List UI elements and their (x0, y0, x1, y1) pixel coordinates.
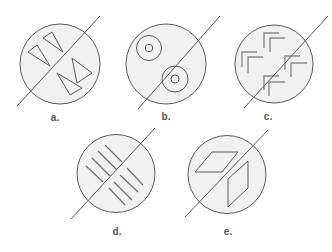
figure-canvas (0, 0, 332, 252)
figure-label-c: c. (264, 111, 272, 122)
figure-b (126, 16, 220, 109)
outer-circle (126, 24, 206, 104)
figure-label-a: a. (51, 112, 59, 123)
figure-c (235, 16, 328, 108)
outer-circle (77, 135, 155, 213)
figure-e (185, 130, 268, 217)
outer-circle (235, 25, 313, 103)
outer-circle (20, 24, 100, 104)
figure-label-d: d. (113, 226, 122, 237)
figure-label-e: e. (224, 226, 232, 237)
figure-d (71, 128, 155, 219)
figure-a (17, 16, 100, 106)
figure-label-b: b. (162, 111, 171, 122)
